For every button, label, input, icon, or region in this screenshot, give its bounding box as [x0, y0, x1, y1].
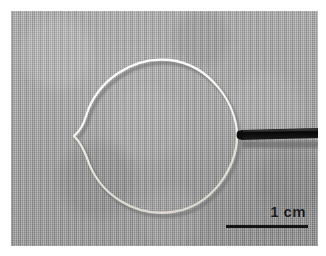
wire-loop-shadow	[77, 63, 240, 216]
scale-bar-label: 1 cm	[270, 204, 306, 219]
figure-root: 1 cm	[0, 0, 326, 256]
clamp-point	[237, 131, 244, 140]
support-rod-shadow	[242, 141, 318, 148]
photograph-plate: 1 cm	[11, 11, 318, 246]
wire-loop	[74, 60, 237, 213]
scale-bar-rule	[226, 225, 308, 228]
support-rod	[241, 128, 318, 140]
